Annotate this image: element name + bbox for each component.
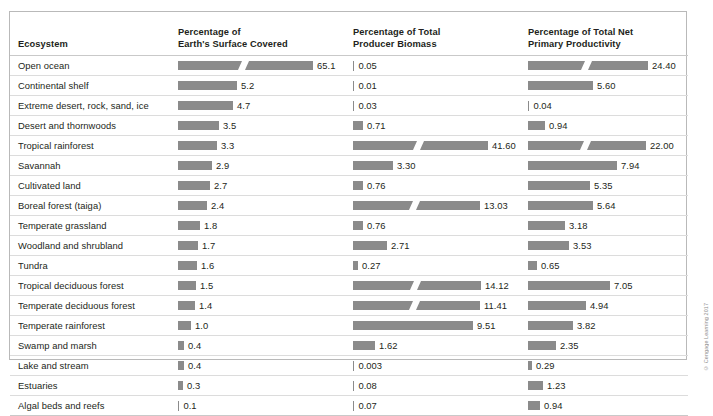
value-bar bbox=[178, 121, 219, 130]
bar-cell-biomass: 1.62 bbox=[348, 336, 523, 356]
bar-value-label: 0.29 bbox=[536, 360, 554, 372]
bar-cell-surface: 0.4 bbox=[173, 356, 348, 376]
column-header-net-primary-productivity-line1: Percentage of Total Net bbox=[528, 26, 688, 38]
axis-break-mark bbox=[579, 141, 593, 150]
value-bar bbox=[528, 61, 648, 70]
value-bar bbox=[353, 201, 480, 210]
ecosystem-name-cell: Temperate rainforest bbox=[10, 316, 173, 336]
table-row: Savannah2.93.307.94 bbox=[10, 156, 688, 176]
bar-wrapper: 3.3 bbox=[178, 136, 348, 155]
axis-break-mark bbox=[237, 61, 251, 70]
bar-cell-npp: 0.94 bbox=[523, 396, 688, 416]
bar-wrapper: 14.12 bbox=[353, 276, 523, 295]
value-bar bbox=[178, 341, 184, 350]
bar-value-label: 65.1 bbox=[317, 60, 335, 72]
bar-cell-npp: 24.40 bbox=[523, 56, 688, 76]
table-row: Temperate rainforest1.09.513.82 bbox=[10, 316, 688, 336]
bar-wrapper: 0.08 bbox=[353, 376, 523, 395]
value-bar bbox=[353, 321, 473, 330]
bar-value-label: 3.18 bbox=[569, 220, 587, 232]
ecosystem-name-cell: Savannah bbox=[10, 156, 173, 176]
bar-value-label: 5.64 bbox=[597, 200, 615, 212]
bar-cell-npp: 5.35 bbox=[523, 176, 688, 196]
bar-value-label: 0.27 bbox=[362, 260, 380, 272]
bar-wrapper: 0.4 bbox=[178, 356, 348, 375]
table-row: Algal beds and reefs0.10.070.94 bbox=[10, 396, 688, 416]
value-bar bbox=[528, 261, 537, 270]
bar-cell-biomass: 0.03 bbox=[348, 96, 523, 116]
bar-value-label: 0.94 bbox=[549, 120, 567, 132]
bar-value-label: 13.03 bbox=[484, 200, 508, 212]
ecosystem-name-cell: Open ocean bbox=[10, 56, 173, 76]
bar-wrapper: 5.60 bbox=[528, 76, 688, 95]
bar-wrapper: 0.94 bbox=[528, 116, 688, 135]
bar-value-label: 1.23 bbox=[547, 380, 565, 392]
bar-cell-surface: 1.7 bbox=[173, 236, 348, 256]
axis-break-mark bbox=[412, 141, 426, 150]
bar-wrapper: 24.40 bbox=[528, 56, 688, 75]
value-bar bbox=[528, 121, 545, 130]
bar-value-label: 24.40 bbox=[652, 60, 676, 72]
value-bar bbox=[353, 381, 354, 391]
ecosystem-name-cell: Boreal forest (taiga) bbox=[10, 196, 173, 216]
value-bar bbox=[353, 241, 387, 250]
value-bar bbox=[178, 221, 200, 230]
bar-wrapper: 0.3 bbox=[178, 376, 348, 395]
axis-break-mark bbox=[408, 201, 422, 210]
bar-cell-biomass: 0.05 bbox=[348, 56, 523, 76]
bar-cell-biomass: 41.60 bbox=[348, 136, 523, 156]
bar-wrapper: 5.2 bbox=[178, 76, 348, 95]
table-row: Desert and thornwoods3.50.710.94 bbox=[10, 116, 688, 136]
bar-value-label: 2.4 bbox=[211, 200, 224, 212]
bar-cell-surface: 4.7 bbox=[173, 96, 348, 116]
column-header-ecosystem: Ecosystem bbox=[10, 12, 173, 56]
bar-cell-npp: 3.18 bbox=[523, 216, 688, 236]
value-bar bbox=[353, 101, 354, 111]
value-bar bbox=[528, 221, 565, 230]
bar-cell-npp: 0.94 bbox=[523, 116, 688, 136]
value-bar bbox=[353, 181, 363, 190]
bar-value-label: 0.05 bbox=[358, 60, 376, 72]
bar-value-label: 1.62 bbox=[379, 340, 397, 352]
bar-value-label: 1.8 bbox=[204, 220, 217, 232]
table-row: Tundra1.60.270.65 bbox=[10, 256, 688, 276]
bar-wrapper: 11.41 bbox=[353, 296, 523, 315]
bar-value-label: 0.07 bbox=[358, 400, 376, 412]
bar-wrapper: 2.9 bbox=[178, 156, 348, 175]
bar-cell-biomass: 0.76 bbox=[348, 216, 523, 236]
bar-wrapper: 1.23 bbox=[528, 376, 688, 395]
bar-cell-npp: 2.35 bbox=[523, 336, 688, 356]
bar-cell-biomass: 14.12 bbox=[348, 276, 523, 296]
bar-value-label: 0.4 bbox=[188, 340, 201, 352]
value-bar bbox=[178, 81, 237, 90]
bar-cell-npp: 3.53 bbox=[523, 236, 688, 256]
value-bar bbox=[528, 361, 532, 370]
bar-wrapper: 0.76 bbox=[353, 176, 523, 195]
bar-cell-surface: 0.1 bbox=[173, 396, 348, 416]
copyright-notice: © Cengage Learning 2017 bbox=[703, 303, 712, 371]
ecosystem-name-cell: Woodland and shrubland bbox=[10, 236, 173, 256]
bar-wrapper: 4.94 bbox=[528, 296, 688, 315]
column-header-net-primary-productivity-line2: Primary Productivity bbox=[528, 38, 688, 50]
bar-value-label: 4.94 bbox=[590, 300, 608, 312]
value-bar bbox=[353, 301, 480, 310]
bar-wrapper: 2.35 bbox=[528, 336, 688, 355]
bar-wrapper: 3.82 bbox=[528, 316, 688, 335]
ecosystem-name-cell: Estuaries bbox=[10, 376, 173, 396]
bar-wrapper: 0.76 bbox=[353, 216, 523, 235]
bar-cell-biomass: 9.51 bbox=[348, 316, 523, 336]
table-row: Boreal forest (taiga)2.413.035.64 bbox=[10, 196, 688, 216]
bar-wrapper: 0.27 bbox=[353, 256, 523, 275]
bar-value-label: 0.04 bbox=[533, 100, 551, 112]
bar-value-label: 0.76 bbox=[367, 220, 385, 232]
bar-value-label: 2.35 bbox=[560, 340, 578, 352]
bar-cell-surface: 1.0 bbox=[173, 316, 348, 336]
bar-wrapper: 13.03 bbox=[353, 196, 523, 215]
column-header-surface-covered: Percentage of Earth's Surface Covered bbox=[173, 12, 348, 56]
bar-cell-biomass: 0.08 bbox=[348, 376, 523, 396]
value-bar bbox=[178, 61, 313, 70]
bar-value-label: 1.0 bbox=[195, 320, 208, 332]
bar-value-label: 2.71 bbox=[391, 240, 409, 252]
bar-cell-npp: 4.94 bbox=[523, 296, 688, 316]
bar-wrapper: 7.05 bbox=[528, 276, 688, 295]
